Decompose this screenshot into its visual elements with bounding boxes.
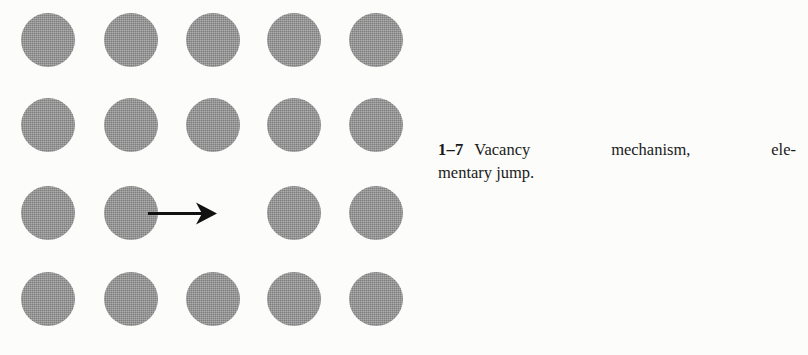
atom-r2c5 [349, 98, 403, 152]
caption-line-2: mentary jump. [438, 161, 796, 184]
atom-r2c2 [104, 98, 158, 152]
atom-r4c3 [186, 272, 240, 326]
caption-word-2: mechanism, [611, 140, 690, 159]
atom-r4c5 [349, 272, 403, 326]
lattice-diagram [0, 0, 420, 355]
caption-word-1: Vacancy [474, 140, 530, 159]
atom-r3c5 [349, 186, 403, 240]
atom-r3c4 [267, 186, 321, 240]
caption-line-1: 1–7Vacancy mechanism, ele- [438, 138, 796, 161]
figure-caption: 1–7Vacancy mechanism, ele- mentary jump. [438, 138, 796, 184]
jump-arrow-icon [144, 196, 228, 232]
atom-r4c2 [104, 272, 158, 326]
atom-r3c1 [21, 186, 75, 240]
atom-r2c3 [186, 98, 240, 152]
figure-root: 1–7Vacancy mechanism, ele- mentary jump. [0, 0, 808, 355]
atom-r1c2 [104, 13, 158, 67]
atom-r1c3 [186, 13, 240, 67]
atom-r4c1 [21, 272, 75, 326]
atom-r2c4 [267, 98, 321, 152]
caption-number: 1–7 [438, 140, 463, 159]
atom-r4c4 [267, 272, 321, 326]
atom-r1c5 [349, 13, 403, 67]
atom-r1c1 [21, 13, 75, 67]
atom-r1c4 [267, 13, 321, 67]
atom-r2c1 [21, 98, 75, 152]
caption-word-3: ele- [771, 140, 796, 159]
